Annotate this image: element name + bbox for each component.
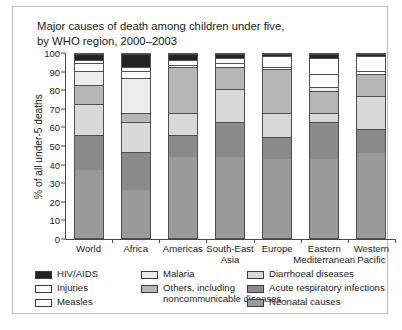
bar-segment[interactable] — [263, 113, 291, 137]
legend-column: HIV/AIDSInjuriesMeasles — [35, 269, 98, 311]
bar-segment[interactable] — [75, 85, 103, 103]
bar-south-east-asia[interactable] — [215, 53, 245, 239]
y-axis-tick-mark — [61, 164, 65, 165]
bar-segment[interactable] — [216, 157, 244, 238]
bar-segment[interactable] — [122, 113, 150, 122]
legend-item[interactable]: Neonatal causes — [247, 297, 385, 308]
legend-label: Injuries — [57, 283, 88, 294]
legend-item[interactable]: Measles — [35, 297, 98, 308]
bar-segment[interactable] — [169, 67, 197, 113]
bar-eastern-mediterranean[interactable] — [309, 53, 339, 239]
legend-label: Malaria — [163, 269, 194, 280]
x-axis-label: WesternPacific — [340, 244, 402, 265]
bar-segment[interactable] — [357, 74, 385, 96]
legend-label: HIV/AIDS — [57, 269, 98, 280]
bar-segment[interactable] — [357, 129, 385, 153]
plot-area: 1009080706050403020100 — [65, 53, 395, 239]
bar-western-pacific[interactable] — [356, 53, 386, 239]
chart-frame: Major causes of death among children und… — [12, 6, 388, 314]
y-axis-tick-mark — [61, 53, 65, 54]
bar-segment[interactable] — [263, 137, 291, 159]
bar-segment[interactable] — [75, 71, 103, 86]
y-axis-tick-mark — [61, 71, 65, 72]
bar-segment[interactable] — [122, 122, 150, 151]
bar-segment[interactable] — [310, 91, 338, 113]
y-axis-tick-mark — [61, 127, 65, 128]
bar-segment[interactable] — [310, 113, 338, 122]
x-axis-tick-mark — [301, 239, 302, 243]
legend-swatch-icon — [35, 285, 52, 293]
bar-segment[interactable] — [216, 122, 244, 157]
bar-americas[interactable] — [168, 53, 198, 239]
bar-segment[interactable] — [263, 159, 291, 238]
bar-segment[interactable] — [122, 190, 150, 238]
legend-column: Diarrhoeal diseasesAcute respiratory inf… — [247, 269, 385, 311]
bar-segment[interactable] — [122, 54, 150, 67]
y-axis-tick-mark — [61, 183, 65, 184]
bar-segment[interactable] — [122, 78, 150, 113]
x-axis-tick-mark — [395, 239, 396, 243]
x-axis-tick-mark — [159, 239, 160, 243]
legend-swatch-icon — [141, 271, 158, 279]
legend-item[interactable]: Injuries — [35, 283, 98, 294]
bar-segment[interactable] — [122, 71, 150, 78]
legend-item[interactable]: Diarrhoeal diseases — [247, 269, 385, 280]
bar-segment[interactable] — [169, 135, 197, 157]
bar-segment[interactable] — [75, 104, 103, 135]
bar-segment[interactable] — [357, 153, 385, 238]
chart-title: Major causes of death among children und… — [37, 19, 387, 48]
bar-segment[interactable] — [310, 74, 338, 87]
x-axis-tick-mark — [112, 239, 113, 243]
bar-segment[interactable] — [169, 157, 197, 238]
y-axis-tick-mark — [61, 201, 65, 202]
legend-swatch-icon — [35, 299, 52, 307]
bar-segment[interactable] — [310, 58, 338, 75]
legend-label: Diarrhoeal diseases — [269, 269, 354, 280]
bar-africa[interactable] — [121, 53, 151, 239]
legend-swatch-icon — [247, 285, 264, 293]
legend-item[interactable]: HIV/AIDS — [35, 269, 98, 280]
legend-swatch-icon — [247, 299, 264, 307]
chart-title-line-1: Major causes of death among children und… — [37, 19, 387, 34]
bar-segment[interactable] — [216, 89, 244, 122]
y-axis-tick-mark — [61, 146, 65, 147]
y-axis-tick-mark — [61, 239, 65, 240]
y-axis-tick-mark — [61, 220, 65, 221]
x-axis-line — [65, 239, 395, 240]
bar-segment[interactable] — [310, 122, 338, 159]
bar-world[interactable] — [74, 53, 104, 239]
bar-segment[interactable] — [75, 170, 103, 238]
legend-swatch-icon — [247, 271, 264, 279]
legend-swatch-icon — [35, 271, 52, 279]
x-axis-tick-mark — [348, 239, 349, 243]
legend-item[interactable]: Acute respiratory infections — [247, 283, 385, 294]
y-axis-tick-mark — [61, 108, 65, 109]
bar-segment[interactable] — [216, 67, 244, 89]
legend-swatch-icon — [141, 285, 158, 293]
bar-segment[interactable] — [122, 152, 150, 191]
bar-segment[interactable] — [263, 56, 291, 67]
bar-europe[interactable] — [262, 53, 292, 239]
chart-title-line-2: by WHO region, 2000–2003 — [37, 34, 387, 49]
bar-segment[interactable] — [357, 56, 385, 71]
y-axis-tick-mark — [61, 90, 65, 91]
bar-segment[interactable] — [75, 135, 103, 170]
legend-label: Acute respiratory infections — [269, 283, 385, 294]
legend-label: Measles — [57, 297, 93, 308]
bar-segment[interactable] — [263, 69, 291, 113]
y-axis-label: % of all under-5 deaths — [31, 53, 45, 239]
legend-label: Neonatal causes — [269, 297, 340, 308]
bar-segment[interactable] — [169, 113, 197, 135]
bar-segment[interactable] — [75, 63, 103, 70]
bar-segment[interactable] — [310, 159, 338, 238]
bar-segment[interactable] — [357, 96, 385, 129]
